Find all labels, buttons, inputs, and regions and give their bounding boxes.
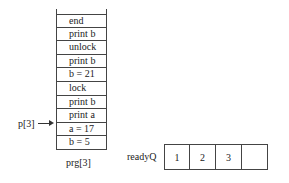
instruction-cell: lock bbox=[56, 82, 107, 96]
instruction-cell: print b bbox=[56, 96, 107, 110]
ready-queue: 1 2 3 bbox=[164, 144, 268, 170]
instruction-cell: end bbox=[56, 14, 107, 28]
ready-queue-label: readyQ bbox=[127, 151, 156, 162]
queue-slot: 3 bbox=[216, 144, 242, 170]
queue-slot: 1 bbox=[164, 144, 190, 170]
instruction-cell: unlock bbox=[56, 41, 107, 55]
queue-slot bbox=[242, 144, 268, 170]
program-label: prg[3] bbox=[66, 157, 91, 168]
pointer-label: p[3] bbox=[18, 118, 35, 129]
arrow-right-icon bbox=[38, 123, 52, 124]
instruction-cell: b = 21 bbox=[56, 68, 107, 82]
instruction-cell: a = 17 bbox=[56, 123, 107, 137]
program-stack: end print b unlock print b b = 21 lock p… bbox=[56, 14, 107, 150]
instruction-cell: print a bbox=[56, 109, 107, 123]
instruction-cell: b = 5 bbox=[56, 136, 107, 150]
instruction-cell: print b bbox=[56, 28, 107, 42]
program-pointer: p[3] bbox=[18, 118, 52, 129]
instruction-cell: print b bbox=[56, 55, 107, 69]
queue-slot: 2 bbox=[190, 144, 216, 170]
